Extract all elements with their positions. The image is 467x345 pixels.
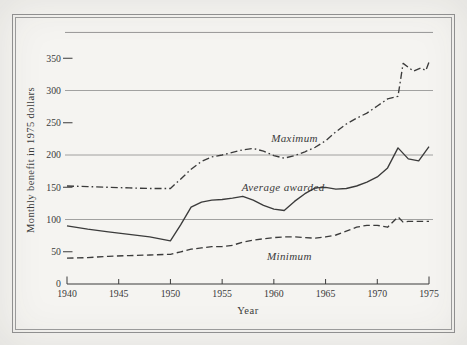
x-tick-label-1950: 1950 xyxy=(161,288,181,299)
y-tick-label-250: 250 xyxy=(46,117,61,128)
benefit-chart: 0501001502002503003501940194519501955196… xyxy=(0,0,467,345)
scanned-page: 0501001502002503003501940194519501955196… xyxy=(0,0,467,345)
x-tick-label-1965: 1965 xyxy=(316,288,336,299)
x-tick-label-1970: 1970 xyxy=(367,288,387,299)
x-tick-label-1960: 1960 xyxy=(264,288,284,299)
average-awarded-label: Average awarded xyxy=(241,181,325,193)
y-tick-label-200: 200 xyxy=(46,149,61,160)
y-tick-label-350: 350 xyxy=(46,53,61,64)
maximum-line xyxy=(67,62,429,188)
maximum-label: Maximum xyxy=(270,132,318,144)
y-tick-label-50: 50 xyxy=(51,246,61,257)
average-awarded-line xyxy=(67,147,429,241)
x-axis-title: Year xyxy=(237,305,258,316)
y-tick-label-300: 300 xyxy=(46,85,61,96)
x-tick-label-1940: 1940 xyxy=(57,288,77,299)
y-axis-title: Monthly benefit in 1975 dollars xyxy=(25,87,36,233)
minimum-line xyxy=(67,217,429,258)
x-tick-label-1955: 1955 xyxy=(212,288,232,299)
x-tick-label-1975: 1975 xyxy=(419,288,439,299)
y-tick-label-150: 150 xyxy=(46,182,61,193)
x-tick-label-1945: 1945 xyxy=(109,288,129,299)
y-tick-label-100: 100 xyxy=(46,214,61,225)
minimum-label: Minimum xyxy=(266,250,312,262)
